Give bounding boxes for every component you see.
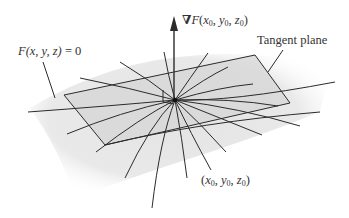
surface-F: F bbox=[18, 44, 26, 58]
arrowhead-icon bbox=[170, 16, 178, 31]
tangent-plane-label: Tangent plane bbox=[257, 34, 327, 47]
tangent-plane-diagram: F(x, y, z) = 0 ∇F(x0, y0, z0) Tangent pl… bbox=[0, 0, 349, 218]
point-label: (x0, y0, z0) bbox=[201, 174, 250, 188]
surface-eq: = 0 bbox=[62, 44, 82, 58]
grad-F: F bbox=[191, 13, 199, 27]
grad-close: ) bbox=[244, 13, 248, 27]
surface-leader-line bbox=[43, 62, 55, 98]
surface-args: (x, y, z) bbox=[26, 44, 62, 58]
nabla-symbol: ∇ bbox=[182, 13, 191, 27]
point-of-tangency bbox=[173, 98, 177, 102]
gradient-label: ∇F(x0, y0, z0) bbox=[182, 14, 248, 28]
surface-equation-label: F(x, y, z) = 0 bbox=[18, 45, 81, 58]
point-close: ) bbox=[246, 173, 250, 187]
